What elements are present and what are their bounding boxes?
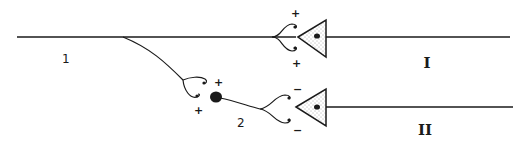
neural-circuit-diagram: + + + + − − 1 2 I II bbox=[0, 0, 525, 145]
label-fiber-1: 1 bbox=[62, 52, 70, 66]
fiber-1-collateral bbox=[123, 37, 183, 80]
label-neuron-II: II bbox=[418, 121, 432, 139]
sign-interneuron-2-upper: + bbox=[214, 76, 223, 89]
interneuron-2-soma bbox=[210, 92, 222, 103]
label-interneuron-2: 2 bbox=[237, 116, 245, 130]
neuron-II-nucleus bbox=[314, 104, 320, 109]
neuron-I-nucleus bbox=[314, 33, 320, 38]
synapse-fiber1-to-interneuron-2 bbox=[183, 77, 207, 97]
neuron-I-soma bbox=[298, 20, 326, 57]
sign-interneuron-2-lower: + bbox=[194, 104, 203, 117]
synapse-interneuron2-to-neuron-II bbox=[260, 95, 291, 123]
sign-neuron-I-lower: + bbox=[292, 57, 301, 70]
label-neuron-I: I bbox=[423, 54, 430, 72]
sign-neuron-II-upper: − bbox=[293, 83, 302, 96]
sign-neuron-II-lower: − bbox=[293, 124, 302, 137]
interneuron-2-axon bbox=[220, 98, 260, 109]
sign-neuron-I-upper: + bbox=[291, 7, 300, 20]
